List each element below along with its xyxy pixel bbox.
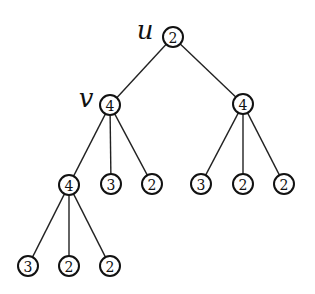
node-value: 2	[169, 30, 178, 46]
tree-node: 2	[274, 174, 294, 194]
node-value: 2	[148, 177, 157, 193]
tree-edge	[33, 194, 65, 257]
node-label-v: v	[79, 83, 94, 113]
tree-edge	[180, 44, 236, 97]
node-value: 3	[24, 259, 33, 275]
node-value: 3	[197, 177, 206, 193]
tree-edge	[206, 113, 239, 175]
tree-node: 2	[142, 174, 162, 194]
tree-edges	[33, 44, 280, 257]
tree-node: 2	[59, 256, 79, 276]
node-label-u: u	[137, 15, 154, 45]
tree-nodes: 244432322322	[18, 27, 294, 276]
tree-node: 2	[100, 256, 120, 276]
tree-node: 2	[233, 174, 253, 194]
node-value: 4	[106, 98, 115, 114]
tree-node: 4	[100, 95, 120, 115]
tree-node: 3	[191, 174, 211, 194]
tree-edge	[110, 115, 111, 174]
tree-edge	[115, 114, 148, 175]
tree-edge	[74, 194, 106, 257]
node-value: 2	[106, 259, 115, 275]
node-value: 2	[239, 177, 248, 193]
tree-node: 3	[18, 256, 38, 276]
tree-edge	[248, 113, 280, 175]
tree-edge	[117, 44, 166, 97]
node-value: 3	[107, 177, 116, 193]
tree-edge	[74, 114, 106, 176]
tree-node: 2	[163, 27, 183, 47]
node-value: 2	[65, 259, 74, 275]
node-value: 4	[65, 178, 74, 194]
tree-diagram: 244432322322 uv	[0, 0, 315, 294]
tree-node: 4	[233, 94, 253, 114]
node-value: 2	[280, 177, 289, 193]
node-value: 4	[239, 97, 248, 113]
tree-node: 4	[59, 175, 79, 195]
tree-node: 3	[101, 174, 121, 194]
